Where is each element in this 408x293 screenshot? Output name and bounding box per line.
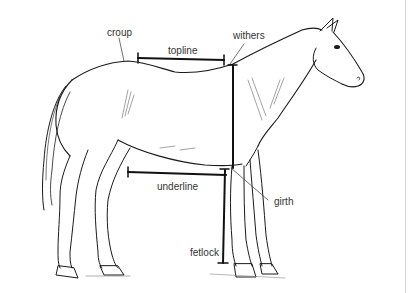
frame-border [405, 0, 406, 293]
leg-bar [218, 170, 228, 263]
label-withers: withers [233, 31, 265, 41]
label-croup: croup [107, 28, 132, 38]
horse-diagram: croup topline withers underline girth fe… [0, 0, 408, 293]
underline-bar [128, 167, 229, 177]
label-fetlock: fetlock [190, 248, 219, 258]
height-bar [228, 65, 237, 168]
label-underline: underline [157, 182, 198, 192]
label-girth: girth [274, 197, 293, 207]
label-topline: topline [168, 46, 197, 56]
